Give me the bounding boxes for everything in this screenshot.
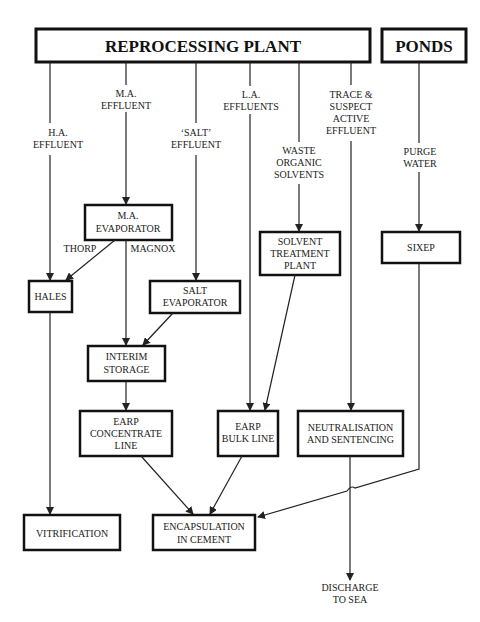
earp-concentrate-box: EARP CONCENTRATE LINE <box>80 411 172 456</box>
reprocessing-plant-box: REPROCESSING PLANT <box>36 29 370 62</box>
edge-salt-evap-to-interim <box>143 313 173 345</box>
earp-bulk-label-2: BULK LINE <box>222 433 275 444</box>
magnox-label: MAGNOX <box>131 243 177 254</box>
ma-effluent-label-1: M.A. <box>115 88 136 99</box>
discharge-label-1: DISCHARGE <box>321 582 378 593</box>
edge-earp-bulk-to-encapsulation <box>210 456 242 514</box>
ponds-box: PONDS <box>382 29 466 62</box>
ponds-title: PONDS <box>395 37 453 56</box>
ma-effluent-label-2: EFFLUENT <box>101 100 151 111</box>
edge-purge-water: PURGE WATER <box>403 62 437 231</box>
earp-bulk-label-1: EARP <box>235 421 261 432</box>
edge-earp-concentrate-to-encapsulation <box>141 456 193 514</box>
solvent-label-3: PLANT <box>284 260 316 271</box>
flow-diagram: REPROCESSING PLANT PONDS H.A. EFFLUENT M… <box>0 0 480 622</box>
hales-label: HALES <box>34 291 66 302</box>
edge-waste-organic-solvents: WASTE ORGANIC SOLVENTS <box>274 62 324 231</box>
interim-storage-box: INTERIM STORAGE <box>88 346 165 381</box>
encapsulation-label-2: IN CEMENT <box>177 534 231 545</box>
vitrification-label: VITRIFICATION <box>36 528 108 539</box>
encapsulation-box: ENCAPSULATION IN CEMENT <box>153 515 255 550</box>
trace-label-2: SUSPECT <box>330 101 373 112</box>
interim-label-1: INTERIM <box>106 351 148 362</box>
edge-sixep-to-encapsulation <box>258 263 419 517</box>
salt-evaporator-box: SALT EVAPORATOR <box>150 281 240 313</box>
thorp-label: THORP <box>64 243 97 254</box>
hales-box: HALES <box>29 281 72 312</box>
purge-label-2: WATER <box>403 158 437 169</box>
neutralisation-label-1: NEUTRALISATION <box>308 422 394 433</box>
ha-effluent-label-1: H.A. <box>48 127 67 138</box>
purge-label-1: PURGE <box>404 146 437 157</box>
earp-concentrate-label-1: EARP <box>113 416 139 427</box>
solvent-treatment-box: SOLVENT TREATMENT PLANT <box>260 232 340 275</box>
discharge-label-2: TO SEA <box>333 594 368 605</box>
salt-effluent-label-1: ‘SALT’ <box>181 127 212 138</box>
salt-effluent-label-2: EFFLUENT <box>171 139 221 150</box>
earp-concentrate-label-2: CONCENTRATE <box>90 428 162 439</box>
solvent-label-1: SOLVENT <box>278 236 323 247</box>
interim-label-2: STORAGE <box>104 364 150 375</box>
earp-concentrate-label-3: LINE <box>115 440 138 451</box>
neutralisation-label-2: AND SENTENCING <box>307 434 394 445</box>
trace-label-4: EFFLUENT <box>326 125 376 136</box>
reprocessing-plant-title: REPROCESSING PLANT <box>105 37 302 56</box>
salt-evaporator-label-1: SALT <box>183 285 207 296</box>
edge-thorp: THORP <box>64 240 115 280</box>
ma-evaporator-label-2: EVAPORATOR <box>96 223 161 234</box>
waste-label-3: SOLVENTS <box>274 169 324 180</box>
trace-label-3: ACTIVE <box>333 113 370 124</box>
sixep-label: SIXEP <box>407 242 435 253</box>
la-effluents-label-1: L.A. <box>242 89 260 100</box>
sixep-box: SIXEP <box>382 232 460 263</box>
edge-salt-effluent: ‘SALT’ EFFLUENT <box>171 62 221 280</box>
edge-ma-effluent: M.A. EFFLUENT <box>101 62 151 204</box>
salt-evaporator-label-2: EVAPORATOR <box>163 297 228 308</box>
trace-label-1: TRACE & <box>329 89 372 100</box>
encapsulation-label-1: ENCAPSULATION <box>163 521 245 532</box>
waste-label-1: WASTE <box>282 145 315 156</box>
la-effluents-label-2: EFFLUENTS <box>223 101 279 112</box>
ha-effluent-label-2: EFFLUENT <box>33 139 83 150</box>
waste-label-2: ORGANIC <box>276 157 322 168</box>
ma-evaporator-label-1: M.A. <box>117 210 138 221</box>
ma-evaporator-box: M.A. EVAPORATOR <box>85 205 172 240</box>
vitrification-box: VITRIFICATION <box>24 515 120 550</box>
edge-solvent-to-earp-bulk <box>265 275 295 410</box>
neutralisation-box: NEUTRALISATION AND SENTENCING <box>298 411 403 456</box>
solvent-label-2: TREATMENT <box>270 248 329 259</box>
earp-bulk-box: EARP BULK LINE <box>218 411 278 456</box>
